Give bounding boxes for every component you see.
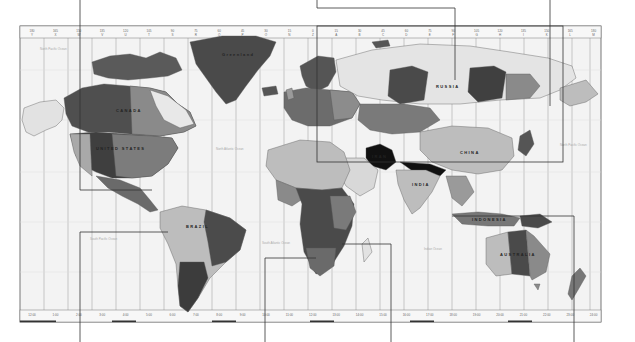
time-label: 24:00: [590, 313, 598, 317]
label-china: CHINA: [460, 150, 480, 155]
longitude-label: 105: [146, 29, 151, 33]
land-iceland: [262, 86, 278, 96]
longitude-label: 135: [521, 29, 526, 33]
zone-letter-label: Z: [312, 33, 314, 37]
zone-letter-label: V: [101, 33, 103, 37]
land-russia-west: [388, 66, 428, 104]
time-label: 23:00: [566, 313, 574, 317]
longitude-label: 180: [591, 29, 596, 33]
longitude-label: 90: [171, 29, 175, 33]
time-label: 7:00: [193, 313, 199, 317]
zone-letter-label: F: [452, 33, 454, 37]
zone-letter-label: Y: [31, 33, 33, 37]
zone-letter-label: A: [335, 33, 337, 37]
time-label: 22:00: [543, 313, 551, 317]
longitude-label: 60: [218, 29, 222, 33]
longitude-label: 45: [241, 29, 245, 33]
longitude-label: 165: [568, 29, 573, 33]
label-indian-ocean: Indian Ocean: [424, 247, 442, 251]
time-label: 17:00: [426, 313, 434, 317]
longitude-label: 75: [428, 29, 432, 33]
label-iran: IRAN: [372, 154, 387, 159]
longitude-label: 105: [474, 29, 479, 33]
label-indonesia: INDONESIA: [472, 217, 507, 222]
zone-letter-label: B: [359, 33, 361, 37]
time-label: 11:00: [286, 313, 294, 317]
longitude-label: 180: [29, 29, 34, 33]
label-greenland: Greenland: [222, 52, 254, 57]
label-united-states: UNITED STATES: [96, 146, 145, 151]
zone-letter-label: S: [171, 33, 173, 37]
world-time-zone-map: 180Y165X150W135V120U105T90S75R60Q45P30O1…: [0, 0, 635, 342]
zone-letter-label: N: [288, 33, 290, 37]
land-russia-central: [468, 66, 506, 102]
longitude-label: 30: [358, 29, 362, 33]
longitude-label: 15: [288, 29, 292, 33]
longitude-label: 150: [76, 29, 81, 33]
label-brazil: BRAZIL: [186, 224, 209, 229]
longitude-label: 165: [53, 29, 58, 33]
zone-letter-label: X: [54, 33, 56, 37]
label-south-pacific: South Pacific Ocean: [90, 237, 118, 241]
label-north-pacific-west: North Pacific Ocean: [40, 47, 67, 51]
time-label: 5:00: [146, 313, 152, 317]
longitude-label: 120: [497, 29, 502, 33]
label-north-pacific-east: North Pacific Ocean: [560, 143, 587, 147]
time-label: 19:00: [473, 313, 481, 317]
longitude-label: 30: [264, 29, 268, 33]
label-canada: CANADA: [116, 108, 142, 113]
time-label: 8:00: [216, 313, 222, 317]
label-india: INDIA: [412, 182, 430, 187]
time-label: 6:00: [169, 313, 175, 317]
time-label: 9:00: [240, 313, 246, 317]
longitude-label: 60: [405, 29, 409, 33]
longitude-label: 135: [100, 29, 105, 33]
time-label: 20:00: [496, 313, 504, 317]
label-south-atlantic: South Atlantic Ocean: [262, 241, 290, 245]
longitude-label: 150: [544, 29, 549, 33]
label-australia: AUSTRALIA: [500, 252, 536, 257]
top-ruler: [20, 26, 601, 38]
time-label: 21:00: [520, 313, 528, 317]
time-label: 12:00: [28, 313, 36, 317]
time-label: 16:00: [403, 313, 411, 317]
time-label: 12:00: [309, 313, 317, 317]
time-label: 1:00: [52, 313, 58, 317]
time-label: 13:00: [332, 313, 340, 317]
time-label: 10:00: [262, 313, 270, 317]
time-label: 18:00: [449, 313, 457, 317]
longitude-label: 120: [123, 29, 128, 33]
zone-letter-label: K: [546, 33, 548, 37]
longitude-label: 75: [194, 29, 198, 33]
time-label: 4:00: [123, 313, 129, 317]
time-label: 3:00: [99, 313, 105, 317]
zone-letter-label: T: [148, 33, 150, 37]
label-north-atlantic: North Atlantic Ocean: [216, 147, 244, 151]
zone-letter-label: E: [429, 33, 431, 37]
time-label: 2:00: [76, 313, 82, 317]
zone-letter-label: H: [499, 33, 501, 37]
zone-letter-label: U: [125, 33, 127, 37]
label-russia: RUSSIA: [436, 84, 460, 89]
time-label: 14:00: [356, 313, 364, 317]
longitude-label: 45: [381, 29, 385, 33]
longitude-label: 15: [335, 29, 339, 33]
time-label: 15:00: [379, 313, 387, 317]
